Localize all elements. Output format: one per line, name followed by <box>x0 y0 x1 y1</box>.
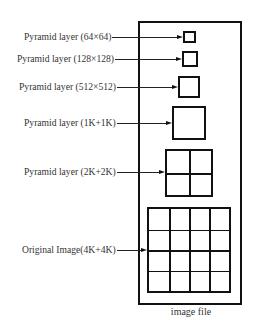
leader-line-1k <box>117 123 166 124</box>
leader-line-4k <box>117 250 141 251</box>
pyramid-tile-1k <box>172 106 206 140</box>
pyramid-tile-4k <box>147 207 231 293</box>
leader-line-2k <box>117 172 159 173</box>
pyramid-tile-2k <box>165 149 213 197</box>
grid-divider <box>149 250 229 252</box>
pyramid-tile-128 <box>182 51 198 67</box>
leader-line-64 <box>112 37 177 38</box>
layer-label-2k: Pyramid layer (2K+2K) <box>24 166 116 178</box>
layer-label-4k: Original Image(4K+4K) <box>22 244 116 256</box>
layer-label-128: Pyramid layer (128×128) <box>17 53 114 65</box>
layer-label-512: Pyramid layer (512×512) <box>19 81 116 93</box>
grid-divider <box>209 209 211 291</box>
grid-divider <box>167 173 211 175</box>
pyramid-tile-512 <box>178 76 200 98</box>
layer-label-64: Pyramid layer (64×64) <box>24 31 111 43</box>
layer-label-1k: Pyramid layer (1K+1K) <box>24 117 116 129</box>
leader-line-512 <box>117 87 172 88</box>
pyramid-tile-64 <box>183 31 196 43</box>
image-file-caption: image file <box>160 306 222 317</box>
grid-divider <box>149 271 229 273</box>
leader-line-128 <box>115 59 176 60</box>
